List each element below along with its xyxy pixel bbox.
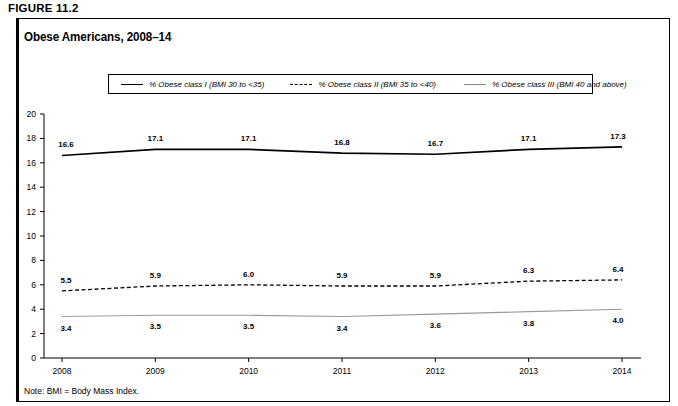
legend-item-class-ii: % Obese class II (BMI 35 to <40) <box>290 80 436 89</box>
legend-item-class-iii: % Obese class III (BMI 40 and above) <box>464 80 627 89</box>
legend-line-solid-icon <box>121 81 143 88</box>
legend-label-class-iii: % Obese class III (BMI 40 and above) <box>492 80 627 89</box>
chart-title: Obese Americans, 2008–14 <box>24 30 171 44</box>
legend-label-class-i: % Obese class I (BMI 30 to <35) <box>149 80 264 89</box>
legend-item-class-i: % Obese class I (BMI 30 to <35) <box>121 80 264 89</box>
legend-label-class-ii: % Obese class II (BMI 35 to <40) <box>318 80 436 89</box>
chart-note: Note: BMI = Body Mass Index. <box>24 386 139 396</box>
figure-label: FIGURE 11.2 <box>8 2 79 14</box>
legend-line-dashed-icon <box>290 81 312 88</box>
legend-line-thin-icon <box>464 81 486 88</box>
chart-legend: % Obese class I (BMI 30 to <35) % Obese … <box>108 74 593 94</box>
